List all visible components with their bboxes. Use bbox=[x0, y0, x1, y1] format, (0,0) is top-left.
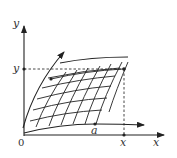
left-curve-arrow bbox=[23, 52, 64, 128]
x-axis-label: x bbox=[153, 136, 160, 149]
origin-label: 0 bbox=[18, 137, 24, 148]
y-axis-label: y bbox=[12, 17, 20, 30]
y-tick-point bbox=[22, 67, 25, 70]
a-point-label: a bbox=[91, 124, 98, 137]
mapped-point bbox=[122, 67, 126, 71]
coordinate-diagram: y x 0 y x a bbox=[0, 0, 177, 158]
x-tick-label: x bbox=[120, 136, 127, 149]
lower-curve-arrow bbox=[24, 124, 144, 133]
grid-start-point bbox=[49, 77, 52, 80]
y-tick-label: y bbox=[12, 62, 20, 75]
upper-curve bbox=[60, 57, 128, 63]
